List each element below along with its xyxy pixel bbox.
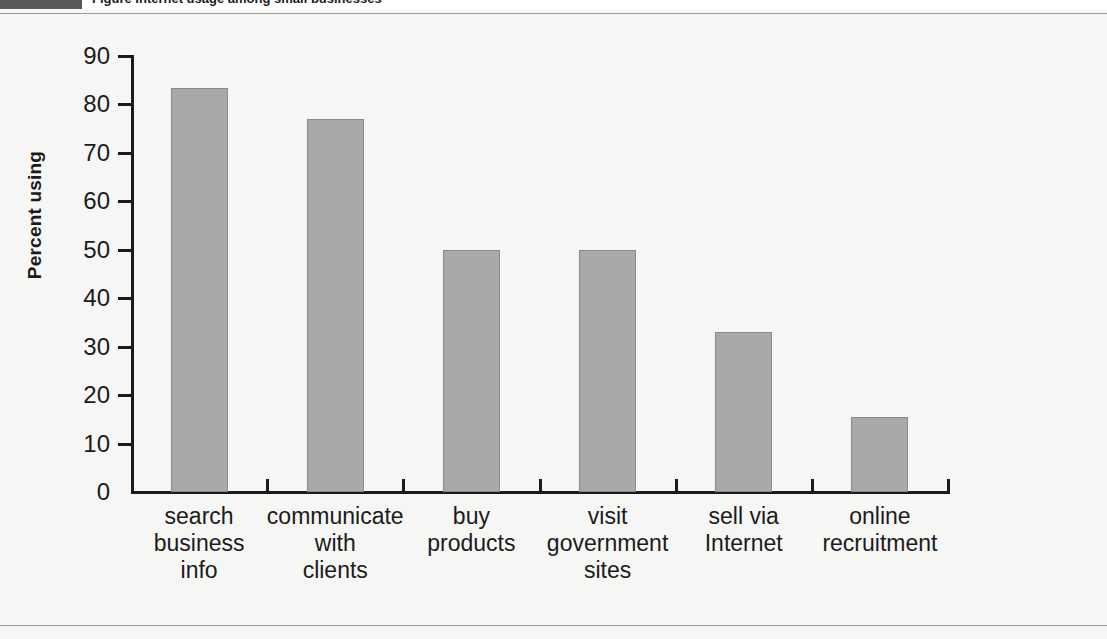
x-axis-category-label: communicatewithclients [263,503,407,584]
x-axis-category-label-line: search [127,503,271,530]
figure-caption-text: Figure Internet usage among small busine… [92,0,382,9]
x-axis-category-label-line: communicate [263,503,407,530]
x-axis-category-label-line: sell via [672,503,816,530]
x-axis-category-label-line: recruitment [808,530,952,557]
figure-number-tag [0,0,82,9]
bar-series [0,55,1107,492]
x-axis-category-label: searchbusinessinfo [127,503,271,584]
chart-plot-area: Percent using 9080706050403020100 search… [0,14,1107,625]
x-axis-category-label-line: buy [399,503,543,530]
x-axis-category-label-line: government [536,530,680,557]
x-axis-tick-mark [402,479,405,494]
bottom-rule [0,625,1107,626]
x-axis-tick-mark [266,479,269,494]
x-axis-category-label-line: online [808,503,952,530]
bar [171,88,228,493]
x-axis-category-label: onlinerecruitment [808,503,952,557]
bar [307,119,364,492]
x-axis-category-label-line: Internet [672,530,816,557]
x-axis-category-label-line: products [399,530,543,557]
x-axis-category-label-line: business [127,530,271,557]
bar [715,332,772,492]
x-axis-category-label: visitgovernmentsites [536,503,680,584]
bar [443,250,500,492]
bar [851,417,908,492]
x-axis-category-label: sell viaInternet [672,503,816,557]
x-axis-category-label-line: clients [263,557,407,584]
figure-page: Figure Internet usage among small busine… [0,0,1107,639]
x-axis-tick-mark [947,479,950,494]
x-axis-category-label: buyproducts [399,503,543,557]
x-axis-category-label-line: with [263,530,407,557]
x-axis-tick-mark [811,479,814,494]
x-axis-tick-mark [675,479,678,494]
x-axis-tick-mark [539,479,542,494]
x-axis-category-label-line: sites [536,557,680,584]
bar [579,250,636,492]
x-axis-category-label-line: info [127,557,271,584]
x-axis-category-label-line: visit [536,503,680,530]
figure-caption-strip: Figure Internet usage among small busine… [0,0,1107,9]
